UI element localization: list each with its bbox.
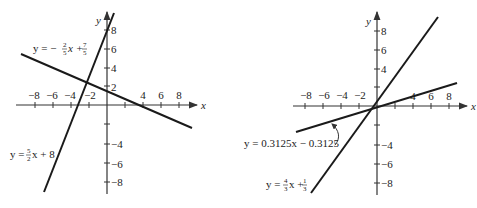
x-axis-label: x xyxy=(200,99,206,111)
svg-text:3: 3 xyxy=(284,185,288,193)
svg-text:6: 6 xyxy=(381,44,387,56)
svg-text:y =: y = xyxy=(266,178,280,190)
equation-label-2: y = 4 3 x + 1 3 xyxy=(266,177,307,193)
svg-text:−6: −6 xyxy=(381,158,393,170)
svg-text:8: 8 xyxy=(111,24,117,36)
line-y-5-2x-plus-8 xyxy=(44,13,114,192)
svg-text:7: 7 xyxy=(83,41,87,49)
svg-text:−4: −4 xyxy=(336,89,348,101)
x-axis-label: x xyxy=(470,100,476,112)
svg-text:−6: −6 xyxy=(111,158,123,170)
svg-text:−8: −8 xyxy=(381,177,393,189)
left-graph: x y −8 −6 −4 −2 4 6 8 xyxy=(10,12,206,194)
svg-text:4: 4 xyxy=(284,177,288,185)
equation-label-2: y = 5 2 x + 8 xyxy=(10,147,55,163)
equation-label-1: y = − 2 5 x + 7 5 xyxy=(33,41,87,57)
svg-text:−2: −2 xyxy=(84,89,96,101)
svg-text:2: 2 xyxy=(111,81,117,93)
svg-text:−2: −2 xyxy=(354,89,366,101)
y-axis-label: y xyxy=(365,15,371,27)
svg-text:8: 8 xyxy=(381,25,387,37)
svg-text:2: 2 xyxy=(63,41,67,49)
svg-text:2: 2 xyxy=(27,155,31,163)
svg-text:4: 4 xyxy=(111,62,117,74)
svg-text:5: 5 xyxy=(27,147,31,155)
svg-text:−6: −6 xyxy=(318,89,330,101)
svg-text:−8: −8 xyxy=(111,176,123,188)
svg-text:y =: y = xyxy=(10,148,24,160)
figure: x y −8 −6 −4 −2 4 6 8 xyxy=(0,0,477,208)
line-y-4-3x-plus-1-3 xyxy=(311,17,438,193)
svg-text:y = −: y = − xyxy=(33,42,56,54)
svg-text:−8: −8 xyxy=(28,89,40,101)
svg-text:8: 8 xyxy=(176,89,182,101)
svg-text:x + 8: x + 8 xyxy=(32,148,55,160)
right-graph: x y −8 −6 −4 −2 4 6 8 xyxy=(244,12,476,195)
svg-text:1: 1 xyxy=(303,177,307,185)
equation-label-1: y = 0.3125x − 0.3125 xyxy=(244,137,339,149)
svg-text:6: 6 xyxy=(111,43,117,55)
svg-text:5: 5 xyxy=(63,49,67,57)
svg-text:−8: −8 xyxy=(300,89,312,101)
svg-text:x +: x + xyxy=(67,42,83,54)
svg-text:x +: x + xyxy=(289,178,303,190)
svg-text:−6: −6 xyxy=(46,89,58,101)
svg-text:−4: −4 xyxy=(381,139,393,151)
y-tick-labels: 8 6 4 −4 −6 −8 xyxy=(381,25,393,189)
svg-text:y = 0.3125x − 0.3125: y = 0.3125x − 0.3125 xyxy=(244,137,339,149)
y-tick-labels: 8 6 4 2 −4 −6 −8 xyxy=(111,24,123,188)
svg-text:−4: −4 xyxy=(64,89,76,101)
svg-text:8: 8 xyxy=(446,90,452,102)
svg-text:4: 4 xyxy=(140,89,146,101)
svg-text:6: 6 xyxy=(158,89,164,101)
y-axis-label: y xyxy=(95,14,101,26)
svg-text:−4: −4 xyxy=(111,138,123,150)
svg-text:5: 5 xyxy=(83,49,87,57)
svg-text:3: 3 xyxy=(303,185,307,193)
svg-text:4: 4 xyxy=(381,63,387,75)
